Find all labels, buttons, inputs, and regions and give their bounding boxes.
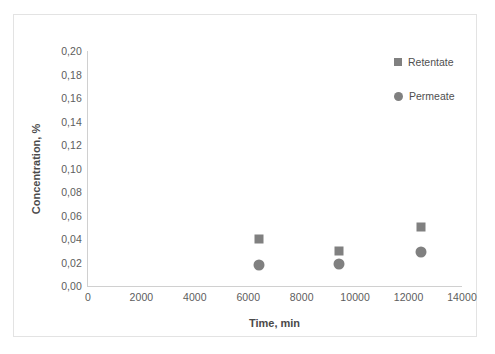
y-axis-tick-label: 0,12 — [61, 139, 82, 151]
x-axis-tick-label: 4000 — [183, 291, 207, 303]
legend-entry: Permeate — [394, 89, 480, 103]
legend-label: Retentate — [408, 56, 454, 68]
chart-figure: 0,000,020,040,060,080,100,120,140,160,18… — [0, 0, 495, 354]
y-axis-tick-label: 0,20 — [61, 45, 82, 57]
data-point-square — [416, 223, 425, 232]
x-axis-tick-label: 8000 — [290, 291, 314, 303]
x-axis-tick-label: 12000 — [394, 291, 424, 303]
data-point-circle — [253, 259, 264, 270]
y-axis-tick-label: 0,16 — [61, 92, 82, 104]
y-axis-tick-label: 0,06 — [61, 210, 82, 222]
y-axis-tick-label: 0,02 — [61, 257, 82, 269]
data-point-circle — [334, 258, 345, 269]
chart-frame: 0,000,020,040,060,080,100,120,140,160,18… — [13, 14, 477, 337]
data-point-square — [335, 246, 344, 255]
y-axis-title: Concentration, % — [30, 51, 44, 287]
data-point-circle — [415, 246, 426, 257]
y-axis-tick-label: 0,10 — [61, 163, 82, 175]
legend-label: Permeate — [409, 90, 455, 102]
y-axis-tick-label: 0,18 — [61, 69, 82, 81]
x-axis-tick-label: 6000 — [236, 291, 260, 303]
y-axis-tick-label: 0,00 — [61, 280, 82, 292]
x-axis-title: Time, min — [87, 317, 462, 329]
y-axis-tick-label: 0,14 — [61, 116, 82, 128]
square-marker-icon — [394, 58, 402, 66]
legend-entry: Retentate — [394, 55, 480, 69]
circle-marker-icon — [394, 92, 403, 101]
x-axis-tick-label: 0 — [85, 291, 91, 303]
x-axis-tick-label: 14000 — [447, 291, 477, 303]
y-axis-tick-label: 0,08 — [61, 186, 82, 198]
chart-legend: RetentatePermeate — [394, 55, 480, 123]
x-axis-tick-label: 2000 — [130, 291, 154, 303]
data-point-square — [254, 235, 263, 244]
y-axis-tick-label: 0,04 — [61, 233, 82, 245]
x-axis-tick-label: 10000 — [340, 291, 370, 303]
